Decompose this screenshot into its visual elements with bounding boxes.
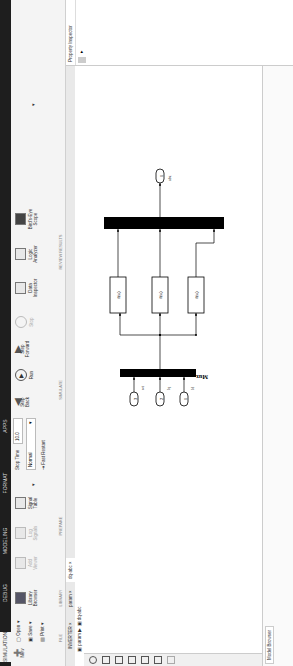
- library-browser-button[interactable]: Library Browser: [15, 586, 38, 610]
- signal-table-icon: [15, 497, 26, 509]
- property-inspector-panel: Property Inspector ▸: [66, 0, 293, 66]
- stop-icon: [15, 316, 27, 328]
- section-prepare: PREPARE: [58, 476, 63, 576]
- logic-analyzer-icon: [15, 248, 26, 260]
- section-review-results: REVIEW RESULTS: [58, 202, 63, 302]
- birds-eye-scope-button[interactable]: Bird's-Eye Scope: [15, 206, 38, 232]
- prepare-gallery-toggle[interactable]: ▾: [31, 483, 36, 486]
- checkbox-icon[interactable]: [167, 656, 175, 664]
- fast-restart-toggle[interactable]: ⇥ Fast Restart: [41, 440, 46, 470]
- new-button[interactable]: ✚ New: [15, 646, 25, 660]
- data-inspector-button[interactable]: Data Inspector: [15, 276, 38, 300]
- tab-simulation[interactable]: SIMULATION: [0, 632, 11, 662]
- property-inspector-title: Property Inspector: [66, 0, 76, 65]
- mux-label: Mux: [196, 374, 208, 380]
- open-label: Open: [16, 625, 21, 636]
- doc-tab-param[interactable]: param ×: [66, 587, 75, 610]
- svg-text:3: 3: [133, 397, 138, 400]
- log-signals-label: Log Signals: [28, 526, 38, 541]
- zoom-icon[interactable]: [89, 656, 97, 664]
- svg-text:2: 2: [159, 397, 164, 400]
- save-button[interactable]: ▣ Save ▾: [28, 621, 33, 642]
- area-icon[interactable]: [154, 656, 162, 664]
- svg-text:1: 1: [183, 397, 188, 400]
- simulation-mode-value: Normal: [28, 452, 33, 467]
- data-inspector-icon: [15, 282, 26, 294]
- doc-tab-label: param: [68, 594, 73, 607]
- toolstrip: ✚ New ▢ Open ▾ ▣ Save ▾ ▤ Print ▾ FILE L…: [11, 0, 66, 666]
- section-library: LIBRARY: [58, 582, 63, 614]
- outport-abc[interactable]: 1 abc: [156, 169, 172, 183]
- doc-tab-inverter[interactable]: INVERTER ×: [66, 619, 75, 652]
- status-bar: Model Browser: [262, 66, 293, 666]
- collapse-toolstrip-toggle[interactable]: ▾: [31, 103, 36, 106]
- run-button[interactable]: ▶ Run: [15, 366, 34, 384]
- doc-tab-label: dq-abc: [68, 565, 73, 579]
- save-label: Save: [28, 625, 33, 635]
- fcn-block-2[interactable]: f(u): [152, 277, 168, 313]
- mux-block[interactable]: [120, 369, 196, 377]
- stop-button[interactable]: Stop: [15, 314, 34, 330]
- step-back-label: Step Back: [20, 397, 30, 407]
- stop-time-label: Stop Time: [15, 450, 20, 470]
- simulation-mode-select[interactable]: Normal▾: [26, 418, 36, 470]
- tab-debug[interactable]: DEBUG: [0, 578, 11, 608]
- fcn-block-1[interactable]: f(u): [188, 277, 204, 313]
- canvas-toolbar: [84, 653, 262, 666]
- logic-analyzer-label: Logic Analyzer: [28, 245, 38, 263]
- step-back-button[interactable]: ◀ Step Back: [15, 392, 30, 412]
- print-label: Print: [40, 626, 45, 635]
- svg-text:f(u): f(u): [194, 291, 199, 299]
- inport-2[interactable]: 2 Iq: [156, 387, 171, 406]
- svg-text:wt: wt: [140, 385, 145, 390]
- document-tabs: INVERTER × param × dq-abc ×: [66, 66, 75, 666]
- arrow-icon[interactable]: [115, 656, 123, 664]
- output-mux-block[interactable]: [104, 217, 224, 229]
- doc-tab-dq-abc[interactable]: dq-abc ×: [66, 558, 75, 582]
- image-icon[interactable]: [141, 656, 149, 664]
- breadcrumb-current-label: dq-abc: [77, 606, 82, 620]
- log-signals-icon: [15, 527, 26, 539]
- stop-time-input[interactable]: 10.0: [13, 418, 23, 444]
- fcn-block-3[interactable]: f(u): [110, 277, 126, 313]
- block-diagram: 1 Id 2 Iq 3 wt Mux: [84, 66, 262, 653]
- log-signals-button[interactable]: Log Signals: [15, 522, 38, 544]
- svg-text:f(u): f(u): [158, 291, 163, 299]
- section-simulate: SIMULATE: [58, 310, 63, 470]
- svg-text:Iq: Iq: [166, 387, 171, 390]
- toolstrip-tabs: SIMULATION DEBUG MODELING FORMAT APPS: [0, 0, 11, 666]
- logic-analyzer-button[interactable]: Logic Analyzer: [15, 242, 38, 266]
- data-inspector-label: Data Inspector: [28, 279, 38, 298]
- open-button[interactable]: ▢ Open ▾: [16, 620, 21, 642]
- print-button[interactable]: ▤ Print ▾: [40, 622, 45, 642]
- step-forward-button[interactable]: ▶ Step Forward: [15, 338, 30, 360]
- svg-text:abc: abc: [167, 175, 172, 181]
- model-browser-tab[interactable]: Model Browser: [265, 626, 274, 664]
- fit-to-view-icon[interactable]: [102, 656, 110, 664]
- add-viewer-button[interactable]: Add Viewer: [15, 552, 38, 574]
- run-label: Run: [29, 371, 34, 379]
- breadcrumb-current[interactable]: ▣ dq-abc: [77, 606, 82, 626]
- doc-tab-label: INVERTER: [68, 626, 73, 649]
- tab-format[interactable]: FORMAT: [0, 468, 11, 498]
- annotation-icon[interactable]: [128, 656, 136, 664]
- birds-eye-scope-icon: [15, 213, 26, 225]
- model-canvas[interactable]: 1 Id 2 Iq 3 wt Mux: [84, 66, 262, 653]
- svg-text:f(u): f(u): [116, 291, 121, 299]
- step-forward-label: Step Forward: [20, 341, 30, 358]
- panel-scroll-handle[interactable]: [78, 57, 86, 63]
- breadcrumb-root[interactable]: ▣ param: [77, 633, 82, 652]
- branch-point: [195, 334, 197, 336]
- inport-1[interactable]: 1 Id: [180, 387, 195, 406]
- svg-text:Id: Id: [190, 387, 195, 390]
- tab-modeling[interactable]: MODELING: [0, 524, 11, 558]
- quick-access-toolbar: [2, 6, 9, 56]
- signal-table-button[interactable]: Signal Table: [15, 492, 38, 514]
- stop-label: Stop: [29, 317, 34, 326]
- inport-3[interactable]: 3 wt: [130, 385, 145, 406]
- library-browser-label: Library Browser: [28, 590, 38, 607]
- tab-apps[interactable]: APPS: [0, 414, 11, 438]
- breadcrumb-separator: ▶: [77, 628, 82, 632]
- expand-arrow-icon[interactable]: ▸: [78, 50, 84, 53]
- signal-table-label: Signal Table: [28, 497, 38, 510]
